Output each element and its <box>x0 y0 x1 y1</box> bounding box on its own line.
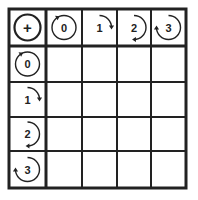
column-header-1: 1 <box>96 16 114 34</box>
column-header-2: 2 <box>131 16 146 43</box>
rotation-addition-table: +01230123 <box>0 0 198 200</box>
row-header-3-label: 3 <box>24 164 30 176</box>
column-header-0: 0 <box>52 16 76 40</box>
column-header-3-label: 3 <box>165 22 171 34</box>
plus-symbol: + <box>23 19 32 36</box>
row-header-2-label: 2 <box>24 128 30 140</box>
column-header-3: 3 <box>154 16 181 40</box>
row-header-3: 3 <box>13 158 40 182</box>
row-header-0: 0 <box>16 52 40 76</box>
column-header-0-label: 0 <box>61 22 67 34</box>
column-header-2-label: 2 <box>131 22 137 34</box>
row-header-1: 1 <box>24 88 42 106</box>
row-header-1-label: 1 <box>24 94 30 106</box>
column-header-1-label: 1 <box>96 22 102 34</box>
operation-plus-header: + <box>15 15 41 41</box>
row-header-0-label: 0 <box>24 58 30 70</box>
row-header-2: 2 <box>24 122 39 149</box>
